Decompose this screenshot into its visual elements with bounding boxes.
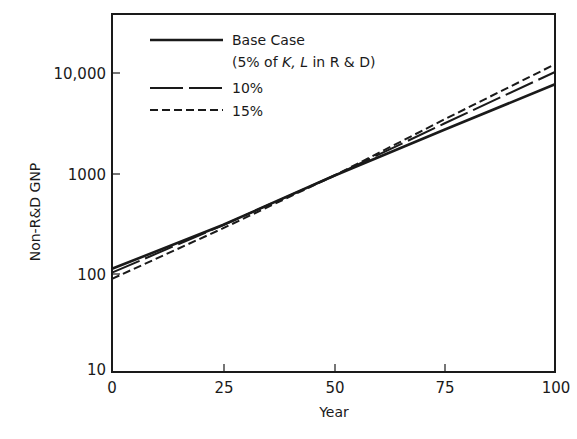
x-tick-50: 50 [325,379,344,397]
legend-label-15: 15% [232,103,263,119]
x-tick-75: 75 [435,379,454,397]
y-tick-100: 100 [77,266,106,284]
series-layer [112,64,555,278]
y-tick-10: 10 [87,361,106,379]
y-axis: 10,000 1000 100 10 [54,65,121,379]
series-line-2 [112,64,555,278]
chart: 10,000 1000 100 10 0 25 50 75 100 Year N… [0,0,577,439]
legend-label-base: Base Case [232,32,305,48]
legend: Base Case (5% of K, L in R & D) 10% 15% [150,32,375,119]
x-axis-title: Year [318,404,349,420]
y-tick-1000: 1000 [68,166,106,184]
legend-label-base-detail: (5% of K, L in R & D) [232,54,375,70]
legend-label-10: 10% [232,80,263,96]
x-tick-100: 100 [542,379,571,397]
x-tick-25: 25 [214,379,233,397]
x-axis: 0 25 50 75 100 [107,364,570,397]
y-axis-title: Non-R&D GNP [27,163,43,262]
x-tick-0: 0 [107,379,117,397]
y-tick-10000: 10,000 [54,65,107,83]
